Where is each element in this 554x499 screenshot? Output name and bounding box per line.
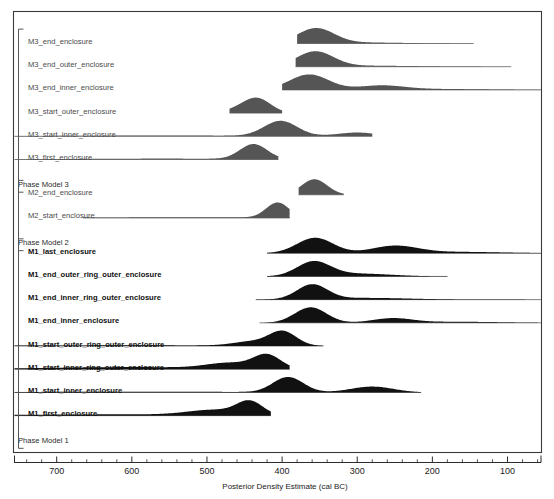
x-axis-title: Posterior Density Estimate (cal BC) (222, 482, 348, 491)
density-curve (297, 28, 474, 44)
row-label: M3_first_enclosure (28, 153, 92, 162)
distribution-groups: M3_end_enclosureM3_end_outer_enclosureM3… (15, 28, 542, 448)
distribution-row: M1_start_inner_enclosure (15, 377, 422, 395)
phase-group-phase-model-1: M1_last_enclosureM1_end_outer_ring_outer… (15, 238, 542, 449)
distribution-row: M1_first_enclosure (15, 400, 271, 418)
row-label: M2_start_enclosure (28, 211, 95, 220)
distribution-row: M3_start_inner_enclosure (15, 121, 373, 139)
distribution-row: M3_first_enclosure (15, 144, 279, 162)
figure-container: M3_end_enclosureM3_end_outer_enclosureM3… (0, 0, 554, 499)
row-label: M1_last_enclosure (28, 247, 96, 256)
distribution-row: M3_end_enclosure (28, 28, 474, 46)
distribution-row: M1_start_inner_ring_outer_enclosure (15, 354, 290, 372)
axis-tick-label: 400 (275, 466, 290, 476)
density-curve (260, 307, 542, 323)
density-curve (267, 238, 541, 254)
row-label: M1_start_inner_ring_outer_enclosure (28, 363, 164, 372)
density-curve (83, 202, 290, 218)
row-label: M3_end_inner_enclosure (28, 83, 114, 92)
density-curve (282, 74, 541, 90)
row-label: M1_first_enclosure (28, 409, 97, 418)
distribution-row: M3_start_outer_enclosure (28, 98, 282, 116)
distribution-row: M1_start_outer_ring_outer_enclosure (15, 331, 324, 349)
distribution-row: M2_start_enclosure (28, 202, 290, 220)
distribution-row: M1_end_outer_ring_outer_enclosure (28, 261, 447, 279)
row-label: M3_start_outer_enclosure (28, 107, 116, 116)
distribution-row: M2_end_enclosure (28, 179, 344, 197)
axis-tick-label: 700 (49, 466, 64, 476)
axis-tick-label: 200 (425, 466, 440, 476)
row-label: M3_end_outer_enclosure (28, 60, 114, 69)
row-label: M3_end_enclosure (28, 37, 93, 46)
axis-tick-label: 300 (350, 466, 365, 476)
distribution-row: M3_end_inner_enclosure (28, 74, 542, 92)
posterior-density-chart: M3_end_enclosureM3_end_outer_enclosureM3… (0, 0, 554, 499)
row-label: M1_end_inner_ring_outer_enclosure (28, 293, 161, 302)
axis-tick-label: 500 (199, 466, 214, 476)
phase-group-phase-model-3: M3_end_enclosureM3_end_outer_enclosureM3… (15, 28, 542, 192)
distribution-row: M1_last_enclosure (28, 238, 542, 256)
phase-label: Phase Model 1 (18, 436, 69, 445)
row-label: M2_end_enclosure (28, 188, 93, 197)
distribution-row: M1_end_inner_ring_outer_enclosure (28, 284, 542, 302)
distribution-row: M1_end_inner_enclosure (28, 307, 542, 325)
phase-bracket (19, 29, 24, 192)
row-label: M1_start_inner_enclosure (28, 386, 122, 395)
x-axis: 700600500400300200100 (14, 456, 541, 476)
axis-tick-label: 600 (124, 466, 139, 476)
distribution-row: M3_end_outer_enclosure (28, 51, 511, 69)
density-curve (299, 179, 344, 195)
row-label: M1_end_outer_ring_outer_enclosure (28, 270, 161, 279)
phase-group-phase-model-2: M2_end_enclosureM2_start_enclosurePhase … (18, 179, 344, 250)
row-label: M3_start_inner_enclosure (28, 130, 116, 139)
row-label: M1_end_inner_enclosure (28, 316, 119, 325)
density-curve (230, 98, 283, 114)
phase-bracket (19, 239, 24, 448)
density-curve (256, 284, 542, 300)
row-label: M1_start_outer_ring_outer_enclosure (28, 340, 164, 349)
density-curve (296, 51, 512, 66)
axis-tick-label: 100 (500, 466, 515, 476)
density-curve (267, 261, 447, 277)
